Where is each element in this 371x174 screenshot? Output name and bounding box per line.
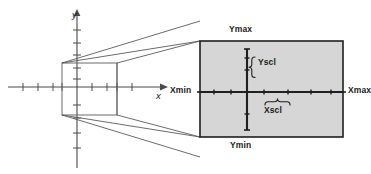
viewing-window: [197, 41, 346, 137]
coordinate-plane: [8, 9, 168, 168]
ymin-label: Ymin: [230, 141, 251, 150]
xscl-label: Xscl: [264, 106, 282, 115]
xmin-label: Xmin: [170, 86, 191, 95]
yscl-label: Yscl: [258, 58, 276, 67]
x-axis-label: x: [156, 91, 161, 101]
y-axis-label: y: [72, 10, 77, 20]
x-axis: [8, 84, 168, 91]
y-axis: [74, 9, 81, 168]
figure-canvas: y x Xmin Xmax Ymax Ymin Yscl Xscl: [0, 0, 371, 174]
xmax-label: Xmax: [348, 86, 371, 95]
viewing-window-rect: [200, 41, 343, 137]
ymax-label: Ymax: [229, 25, 252, 34]
source-window-rect: [62, 63, 117, 115]
